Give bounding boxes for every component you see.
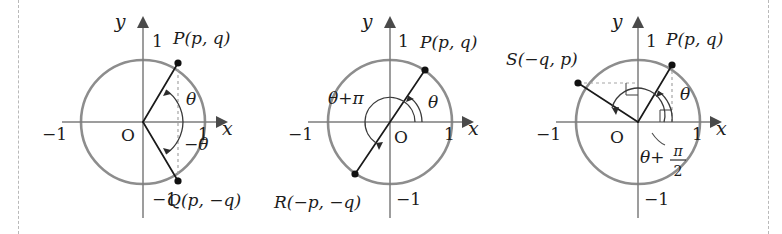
segment-os — [578, 83, 638, 122]
point-p-dot — [174, 59, 181, 66]
x-axis-label: x — [468, 117, 479, 139]
origin-label: O — [610, 127, 624, 147]
arc-theta-plus-half-pi-arrowhead — [612, 107, 619, 115]
tick-x-positive: 1 — [692, 124, 703, 144]
angle-fraction-numerator: π — [672, 143, 683, 159]
y-axis-label: y — [361, 10, 373, 32]
tick-x-positive: 1 — [444, 124, 455, 144]
y-axis-label: y — [114, 10, 126, 32]
tick-x-negative: −1 — [288, 124, 313, 144]
origin-label: O — [394, 127, 408, 147]
y-axis-arrowhead — [137, 16, 149, 28]
point-r-label: R(−p, −q) — [273, 192, 361, 212]
panel-reflection-across-x-axis: y x 1 −1 1 −1 O P(p, q) Q(p, −q) θ −θ — [0, 0, 260, 234]
point-s-dot — [574, 79, 581, 86]
arc-theta-plus-pi-arrowhead — [376, 142, 383, 150]
tick-y-negative: −1 — [644, 189, 669, 209]
angle-leader-line — [652, 133, 665, 145]
x-axis-label: x — [716, 117, 727, 139]
angle-theta-label: θ — [680, 84, 690, 104]
tick-x-negative: −1 — [42, 124, 67, 144]
y-axis-arrowhead — [384, 16, 396, 28]
tick-x-negative: −1 — [536, 124, 561, 144]
y-axis-label: y — [611, 10, 623, 32]
point-q-label: Q(p, −q) — [167, 190, 241, 210]
point-s-label: S(−q, p) — [506, 49, 578, 69]
figure-root: y x 1 −1 1 −1 O P(p, q) Q(p, −q) θ −θ y … — [0, 0, 782, 234]
point-p-label: P(p, q) — [665, 29, 723, 49]
point-p-label: P(p, q) — [419, 32, 477, 52]
tick-y-positive: 1 — [152, 31, 163, 51]
point-r-dot — [351, 170, 358, 177]
angle-theta-label: θ — [428, 92, 438, 112]
segment-oq — [143, 122, 178, 181]
origin-label: O — [121, 125, 135, 145]
angle-theta-label: θ — [186, 89, 196, 109]
tick-y-negative: −1 — [396, 189, 421, 209]
angle-theta-plus-pi-label: θ+π — [328, 88, 364, 108]
tick-y-positive: 1 — [646, 31, 657, 51]
angle-theta-plus-half-pi-lead: θ+ — [640, 147, 664, 167]
segment-op — [143, 63, 178, 122]
panel-quarter-turn-rotation: y x 1 −1 1 −1 O P(p, q) S(−q, p) θ θ+ π … — [500, 0, 782, 234]
angle-negative-theta-label: −θ — [184, 134, 208, 154]
panel-point-reflection-through-origin: y x 1 −1 1 −1 O P(p, q) R(−p, −q) θ θ+π — [250, 0, 510, 234]
point-q-dot — [174, 177, 181, 184]
angle-fraction-denominator: 2 — [674, 163, 683, 179]
point-p-label: P(p, q) — [172, 28, 230, 48]
arc-negative-theta — [166, 122, 183, 154]
y-axis-arrowhead — [632, 16, 644, 28]
x-axis-label: x — [222, 117, 233, 139]
tick-y-positive: 1 — [398, 31, 409, 51]
point-p-dot — [668, 61, 675, 68]
point-p-dot — [421, 66, 428, 73]
arc-theta — [166, 90, 183, 122]
